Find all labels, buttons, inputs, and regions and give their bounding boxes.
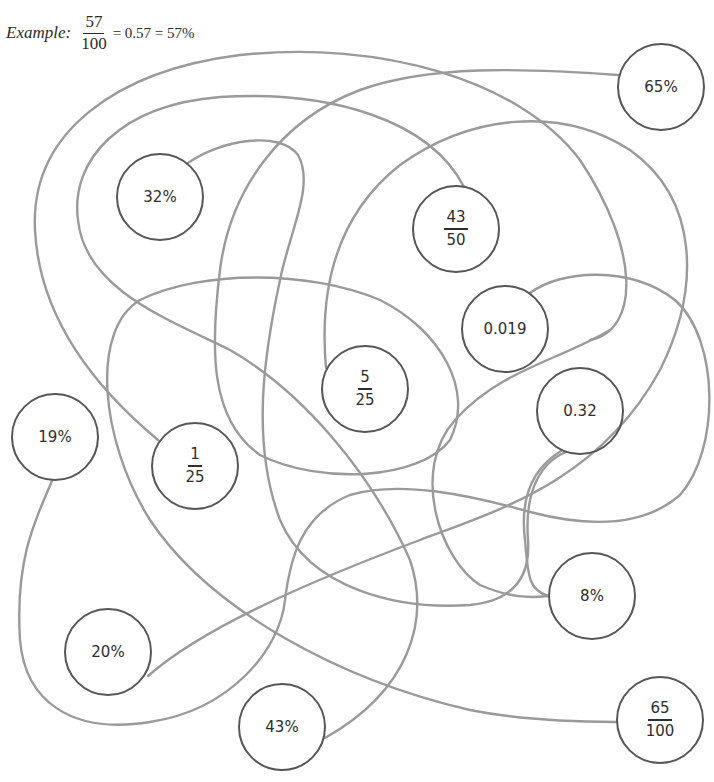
node-label: 0.019 bbox=[484, 320, 527, 338]
node-fraction: 43 50 bbox=[444, 209, 467, 250]
fraction-numerator: 5 bbox=[358, 369, 372, 390]
node-label: 8% bbox=[580, 587, 604, 605]
fraction-denominator: 25 bbox=[185, 467, 204, 486]
node-5-over-25[interactable]: 5 25 bbox=[321, 345, 409, 433]
node-8-percent[interactable]: 8% bbox=[548, 552, 636, 640]
fraction-denominator: 100 bbox=[646, 721, 675, 740]
node-43-percent[interactable]: 43% bbox=[238, 683, 326, 771]
node-label: 43% bbox=[265, 718, 298, 736]
node-65-over-100[interactable]: 65 100 bbox=[616, 676, 704, 764]
node-20-percent[interactable]: 20% bbox=[64, 608, 152, 696]
node-65-percent[interactable]: 65% bbox=[617, 43, 705, 131]
node-43-over-50[interactable]: 43 50 bbox=[412, 185, 500, 273]
node-32-percent[interactable]: 32% bbox=[116, 153, 204, 241]
fraction-numerator: 43 bbox=[444, 209, 467, 230]
node-fraction: 65 100 bbox=[646, 700, 675, 741]
fraction-denominator: 25 bbox=[355, 390, 374, 409]
fraction-numerator: 65 bbox=[648, 700, 671, 721]
node-label: 0.32 bbox=[563, 402, 596, 420]
node-0-32[interactable]: 0.32 bbox=[536, 367, 624, 455]
fraction-numerator: 1 bbox=[188, 446, 202, 467]
node-0-019[interactable]: 0.019 bbox=[461, 285, 549, 373]
node-fraction: 5 25 bbox=[355, 369, 374, 410]
node-label: 20% bbox=[91, 643, 124, 661]
node-fraction: 1 25 bbox=[185, 446, 204, 487]
node-label: 19% bbox=[38, 428, 71, 446]
fraction-denominator: 50 bbox=[446, 230, 465, 249]
node-1-over-25[interactable]: 1 25 bbox=[151, 422, 239, 510]
node-label: 65% bbox=[644, 78, 677, 96]
node-19-percent[interactable]: 19% bbox=[11, 393, 99, 481]
node-label: 32% bbox=[143, 188, 176, 206]
